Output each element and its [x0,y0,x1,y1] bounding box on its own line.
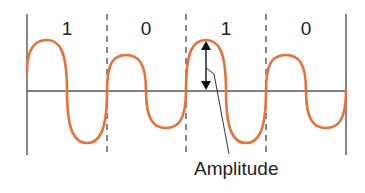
bit-label-1: 1 [62,18,73,39]
arrow-down-icon [201,81,211,90]
bit-label-3: 1 [221,18,232,39]
bit-label-2: 0 [141,18,152,39]
amplitude-modulation-diagram: 1 0 1 0 Amplitude [0,0,365,193]
bit-label-4: 0 [301,18,312,39]
arrow-up-icon [201,41,211,50]
amplitude-label: Amplitude [194,158,279,179]
